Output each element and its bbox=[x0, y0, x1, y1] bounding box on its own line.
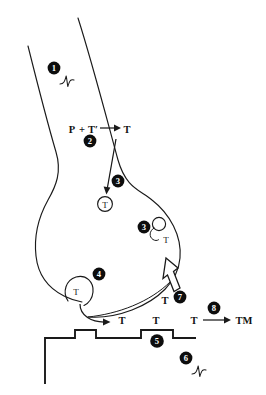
step-badge-8-number: 8 bbox=[212, 303, 217, 313]
diagram-canvas: 1 P + T′ T 2 3 T 3 T bbox=[0, 0, 266, 395]
plus-sign-label: + bbox=[79, 124, 85, 135]
precursor-label: P bbox=[69, 124, 76, 135]
step-6-group: 6 bbox=[180, 352, 206, 377]
reuptake-transmitter-label: T bbox=[161, 295, 168, 306]
vesicle-fusing-label: T bbox=[73, 287, 79, 297]
action-potential-squiggle-icon bbox=[60, 76, 74, 87]
step-5-group: 5 bbox=[150, 334, 164, 348]
cleft-transmitter-released-label: T bbox=[118, 315, 125, 326]
enzyme-label: T′ bbox=[88, 124, 98, 135]
presynaptic-membrane-left bbox=[28, 46, 82, 302]
vesicle-recycling-label: T bbox=[163, 235, 169, 245]
cleft-transmitter-bound-label: T bbox=[152, 315, 159, 326]
cleft-transmitter-free-label: T bbox=[190, 315, 197, 326]
step-badge-4-number: 4 bbox=[97, 269, 102, 279]
vesicle-recycling bbox=[152, 217, 165, 230]
step-badge-3a-number: 3 bbox=[116, 176, 120, 186]
reuptake-path-curve bbox=[88, 282, 170, 317]
postsynaptic-membrane-with-receptors bbox=[45, 330, 196, 384]
synapse-diagram-figure: 1 P + T′ T 2 3 T 3 T bbox=[0, 0, 266, 395]
transmitter-product-label: T bbox=[123, 124, 130, 135]
degradation-arrow-head bbox=[224, 317, 231, 324]
step-8-group: TM 8 bbox=[203, 302, 253, 326]
step-badge-6-number: 6 bbox=[184, 353, 189, 363]
packaging-arrow-head bbox=[104, 186, 111, 194]
vesicle-packaged-label: T bbox=[102, 200, 108, 210]
step-badge-2-number: 2 bbox=[88, 136, 92, 146]
step-2-group: P + T′ T 2 bbox=[69, 124, 131, 148]
step-badge-3b-number: 3 bbox=[142, 222, 146, 232]
step-badge-7-number: 7 bbox=[178, 292, 183, 302]
release-arrow-head bbox=[103, 319, 111, 326]
step-3-recycling-group: 3 T bbox=[138, 217, 170, 245]
step-3-packaging-group: 3 T bbox=[98, 139, 125, 211]
release-arrow-shaft bbox=[80, 304, 104, 322]
step-badge-5-number: 5 bbox=[155, 336, 159, 346]
step-1-group: 1 bbox=[48, 62, 74, 87]
degradation-product-label: TM bbox=[236, 315, 253, 326]
postsynaptic-potential-squiggle-icon bbox=[192, 366, 206, 377]
synthesis-arrow-head bbox=[114, 125, 121, 132]
step-badge-1-number: 1 bbox=[52, 63, 56, 73]
